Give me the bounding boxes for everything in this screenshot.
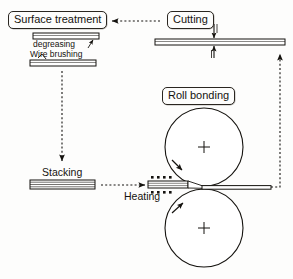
cutting-blade-upper: [214, 24, 217, 38]
annotation-label-degreasing: degreasing: [33, 40, 75, 49]
process-diagram: Surface treatment Cutting Roll bonding S…: [0, 0, 293, 279]
stacking-plate-stack: [30, 180, 95, 189]
upper-roll: [165, 108, 243, 186]
node-label-cutting: Cutting: [167, 11, 214, 29]
node-label-heating: Heating: [124, 191, 160, 202]
cutting-assembly: [155, 24, 285, 58]
annotation-label-wire-brushing: Wire brushing: [30, 50, 82, 59]
lower-roll: [165, 189, 243, 267]
node-label-stacking: Stacking: [42, 167, 82, 178]
node-label-surface-treatment: Surface treatment: [8, 11, 107, 29]
cutting-blade-lower: [212, 46, 215, 58]
heater-dots-top: [151, 176, 172, 179]
node-label-roll-bonding: Roll bonding: [162, 87, 235, 105]
flow-arrow-strip-to-cutting: [271, 54, 280, 187]
